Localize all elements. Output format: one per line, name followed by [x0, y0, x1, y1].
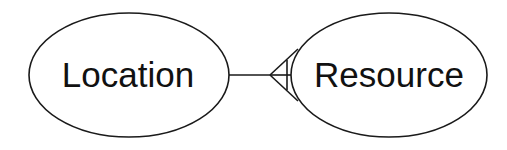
entity-location-label: Location	[62, 55, 194, 94]
entity-location[interactable]: Location	[29, 13, 229, 137]
entity-resource-label: Resource	[314, 55, 464, 94]
er-diagram: Location Resource	[0, 0, 507, 150]
entity-resource[interactable]: Resource	[291, 13, 487, 137]
